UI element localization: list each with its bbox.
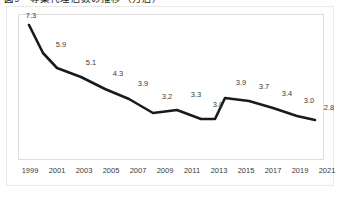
x-axis-tick-labels: 1999 2001 2003 2005 2007 2009 2011 2013 … (18, 166, 324, 178)
x-tick-2017: 2017 (265, 166, 282, 176)
x-tick-2019: 2019 (292, 166, 309, 176)
x-tick-2013: 2013 (211, 166, 228, 176)
data-label-2013: 3.0 (213, 101, 223, 109)
plot-area: 7.3 5.9 5.1 4.3 3.9 3.2 3.3 3.0 3.9 3.7 … (18, 14, 324, 160)
x-tick-2011: 2011 (184, 166, 200, 176)
data-label-2001: 5.9 (56, 41, 66, 49)
data-label-2007: 3.9 (138, 80, 148, 88)
x-tick-2003: 2003 (76, 166, 93, 176)
series-line-path (29, 25, 315, 120)
figure-container: 図9 専業代理店数の推移（万店） 7.3 5.9 5.1 4.3 3.9 3.2… (0, 0, 340, 198)
data-label-2009: 3.2 (162, 93, 172, 101)
x-tick-2021: 2021 (319, 166, 336, 176)
x-tick-2007: 2007 (130, 166, 147, 176)
data-label-1999: 7.3 (26, 12, 36, 20)
data-label-2003: 5.1 (86, 59, 96, 67)
data-label-2021: 3.0 (304, 97, 314, 105)
data-label-final: 2.8 (324, 104, 334, 112)
data-label-2019: 3.4 (282, 90, 292, 98)
data-label-2005: 4.3 (113, 70, 123, 78)
x-tick-2015: 2015 (238, 166, 255, 176)
data-label-2015: 3.9 (236, 79, 246, 87)
chart-title: 図9 専業代理店数の推移（万店） (4, 0, 162, 4)
x-tick-2009: 2009 (157, 166, 174, 176)
data-label-2017: 3.7 (259, 83, 269, 91)
x-tick-2001: 2001 (49, 166, 66, 176)
x-tick-2005: 2005 (103, 166, 120, 176)
data-label-2011: 3.3 (191, 91, 201, 99)
x-tick-1999: 1999 (22, 166, 39, 176)
line-chart-svg (19, 15, 325, 161)
